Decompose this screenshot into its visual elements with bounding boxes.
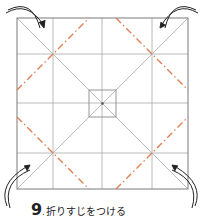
top-left-curved-arrow	[6, 7, 45, 28]
step-separator: .	[42, 208, 45, 217]
bottom-right-curved-arrow	[172, 165, 197, 208]
top-right-curved-arrow	[160, 7, 198, 28]
step-number: 9	[31, 200, 42, 219]
center-point	[101, 102, 103, 104]
step-caption: 9 . 折りすじをつける	[31, 200, 126, 218]
origami-diagram	[0, 0, 202, 221]
step-instruction: 折りすじをつける	[46, 203, 126, 218]
